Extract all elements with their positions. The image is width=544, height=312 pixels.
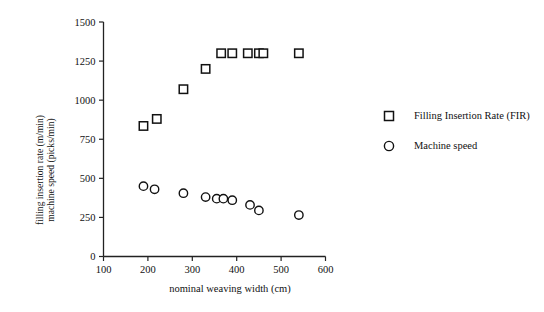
x-axis-title: nominal weaving width (cm) (169, 283, 291, 295)
legend: Filling Insertion Rate (FIR) Machine spe… (384, 110, 530, 151)
y-tick-label: 1250 (75, 56, 96, 67)
y-axis-title-line2: machine speed (picks/min) (45, 118, 57, 221)
y-tick-label: 1500 (75, 17, 96, 28)
series-filling-insertion-rate (139, 49, 303, 130)
data-point (201, 65, 209, 73)
legend-label-machine-speed: Machine speed (414, 140, 478, 151)
x-tick-label: 400 (229, 264, 245, 275)
data-point (259, 49, 267, 57)
data-point (179, 189, 187, 197)
data-point (139, 122, 147, 130)
x-tick-label: 300 (184, 264, 200, 275)
data-point (255, 206, 263, 214)
series-machine-speed (139, 182, 303, 219)
y-tick-label: 500 (80, 173, 96, 184)
data-point (153, 115, 161, 123)
data-point (219, 194, 227, 202)
y-axis-title: filling insertion rate (m/min) machine s… (34, 115, 57, 225)
y-tick-label: 1000 (75, 95, 96, 106)
x-tick-label: 100 (96, 264, 112, 275)
legend-marker-circle (384, 141, 393, 150)
data-point (246, 201, 254, 209)
data-point (217, 49, 225, 57)
y-tick-label: 0 (90, 251, 95, 262)
scatter-plot: 0250500750100012501500 10020030040050060… (0, 0, 544, 312)
y-tick-label: 250 (80, 212, 96, 223)
data-point (295, 211, 303, 219)
data-point (201, 193, 209, 201)
data-point (295, 49, 303, 57)
data-point (244, 49, 252, 57)
y-axis-ticks: 0250500750100012501500 (75, 17, 104, 263)
data-point (179, 85, 187, 93)
legend-marker-square (385, 112, 394, 121)
data-point (228, 49, 236, 57)
y-tick-label: 750 (80, 134, 96, 145)
data-point (139, 182, 147, 190)
axes (104, 22, 326, 257)
x-tick-label: 500 (273, 264, 289, 275)
data-point (150, 185, 158, 193)
chart-figure: 0250500750100012501500 10020030040050060… (0, 0, 544, 312)
x-tick-label: 200 (140, 264, 156, 275)
x-tick-label: 600 (318, 264, 334, 275)
legend-label-fir: Filling Insertion Rate (FIR) (414, 110, 530, 122)
data-point (228, 196, 236, 204)
x-axis-ticks: 100200300400500600 (96, 257, 334, 275)
